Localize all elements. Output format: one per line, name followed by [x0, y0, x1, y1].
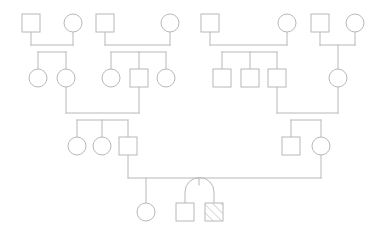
node-g1-f1-mother[interactable]: [64, 14, 82, 32]
union-2-connectors: [105, 32, 170, 69]
node-g2-c1[interactable]: [213, 69, 231, 87]
node-g1-f2-mother[interactable]: [161, 14, 179, 32]
union-5-connectors: [66, 87, 139, 137]
node-g2-a2[interactable]: [57, 69, 75, 87]
node-g4-twin2-affected[interactable]: [205, 203, 223, 221]
pedigree-canvas: [0, 0, 383, 237]
node-g2-c3[interactable]: [268, 69, 286, 87]
node-g3-a2[interactable]: [93, 137, 111, 155]
node-g4-twin1[interactable]: [176, 203, 194, 221]
union-6-connectors: [277, 87, 338, 137]
node-g3-b1[interactable]: [282, 137, 300, 155]
union-4-connectors: [320, 32, 355, 69]
node-g1-f3-mother[interactable]: [278, 14, 296, 32]
node-g2-b3[interactable]: [157, 69, 175, 87]
node-g2-c2[interactable]: [241, 69, 259, 87]
node-g1-f1-father[interactable]: [22, 14, 40, 32]
union-1-connectors: [31, 32, 73, 69]
node-g2-b1[interactable]: [102, 69, 120, 87]
node-g1-f4-mother[interactable]: [346, 14, 364, 32]
union-3-connectors: [210, 32, 287, 69]
node-g1-f3-father[interactable]: [201, 14, 219, 32]
node-g3-a1[interactable]: [68, 137, 86, 155]
node-g1-f4-father[interactable]: [311, 14, 329, 32]
node-g1-f2-father[interactable]: [96, 14, 114, 32]
pedigree-chart: [0, 0, 383, 237]
node-g2-d1[interactable]: [329, 69, 347, 87]
node-g4-child1[interactable]: [137, 203, 155, 221]
union-7-connectors: [128, 155, 321, 203]
node-g2-b2[interactable]: [130, 69, 148, 87]
node-g3-a3[interactable]: [119, 137, 137, 155]
node-g2-a1[interactable]: [29, 69, 47, 87]
connector-lines: [31, 32, 355, 203]
node-g3-b2[interactable]: [312, 137, 330, 155]
